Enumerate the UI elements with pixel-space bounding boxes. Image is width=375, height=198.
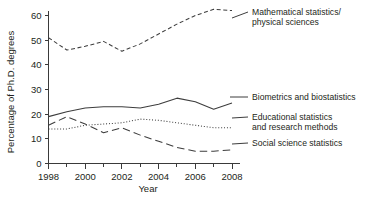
x-axis-tick-label: 2008	[221, 171, 242, 182]
x-axis-tick-label: 2004	[148, 171, 169, 182]
series-line-3	[49, 117, 233, 152]
x-axis-tick-label: 2006	[185, 171, 206, 182]
y-axis-tick-label: 40	[31, 59, 42, 70]
legend-label-3: Social science statistics	[252, 138, 342, 148]
x-axis-tick-label: 2002	[111, 171, 132, 182]
x-axis-tick-label: 2000	[75, 171, 96, 182]
legend-leader-0	[232, 12, 248, 18]
x-axis-tick-label: 1998	[38, 171, 59, 182]
legend-label-0-line2: physical sciences	[252, 17, 319, 27]
y-axis-title: Percentage of Ph.D. degrees	[5, 30, 16, 153]
x-axis-title: Year	[138, 183, 157, 194]
series-line-0	[49, 9, 233, 51]
series-lines	[49, 9, 233, 151]
legend-label-1: Biometrics and biostatistics	[252, 92, 356, 102]
y-axis-tick-label: 50	[31, 35, 42, 46]
y-axis: 0102030405060	[31, 10, 49, 169]
y-axis-tick-label: 60	[31, 10, 42, 21]
legend: Mathematical statistics/physical science…	[230, 7, 356, 148]
legend-leader-2	[232, 117, 248, 118]
legend-label-2: Educational statistics	[252, 112, 332, 122]
x-axis: 199820002002200420062008	[38, 164, 243, 182]
series-line-1	[49, 98, 233, 117]
y-axis-tick-label: 0	[36, 158, 41, 169]
y-axis-tick-label: 30	[31, 84, 42, 95]
y-axis-tick-label: 20	[31, 109, 42, 120]
legend-label-0: Mathematical statistics/	[252, 7, 341, 17]
legend-label-2-line2: and research methods	[252, 122, 338, 132]
line-chart: Percentage of Ph.D. degrees Year 0102030…	[0, 0, 375, 198]
legend-leader-3	[232, 143, 248, 144]
chart-container: Percentage of Ph.D. degrees Year 0102030…	[0, 0, 375, 198]
y-axis-tick-label: 10	[31, 133, 42, 144]
